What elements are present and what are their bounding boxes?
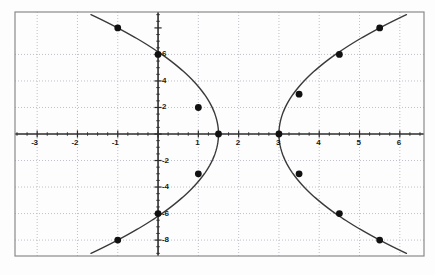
data-point-marker [155,51,162,58]
x-tick-label: 6 [397,138,401,147]
data-point-marker [114,25,121,32]
data-point-marker [296,91,303,98]
data-point-marker [376,237,383,244]
x-tick-label: 4 [316,138,320,147]
data-point-marker [195,170,202,177]
x-tick-label: 3 [276,138,280,147]
y-tick-label: -8 [162,235,169,244]
data-point-marker [296,170,303,177]
x-tick-label: -1 [112,138,119,147]
data-point-marker [155,210,162,217]
x-tick-label: 1 [195,138,199,147]
data-point-marker [195,104,202,111]
data-point-marker [336,210,343,217]
x-tick-label: -2 [71,138,78,147]
coordinate-plane-chart [0,0,435,275]
y-tick-label: 2 [162,102,166,111]
graph-screenshot: -3-2-1123456642-2-4-6-8 [0,0,435,275]
y-tick-label: -6 [162,209,169,218]
data-point-marker [114,237,121,244]
y-tick-label: 6 [162,49,166,58]
x-tick-label: -3 [31,138,38,147]
y-tick-label: -4 [162,182,169,191]
y-tick-label: 4 [162,76,166,85]
data-point-marker [376,25,383,32]
y-tick-label: -2 [162,156,169,165]
data-point-marker [336,51,343,58]
data-point-marker [215,131,222,138]
x-tick-label: 2 [236,138,240,147]
data-point-marker [276,131,283,138]
x-tick-label: 5 [357,138,361,147]
